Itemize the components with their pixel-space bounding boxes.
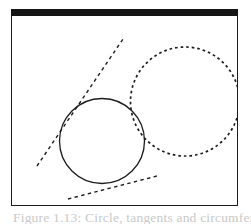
tangent-line-shallow <box>68 176 157 199</box>
geometry-diagram <box>11 9 238 206</box>
caption-strip: Figure 1.13: Circle, tangents and circum… <box>0 213 251 224</box>
dashed-circle <box>131 47 239 156</box>
tangent-line-steep <box>37 39 123 166</box>
figure-page: Figure 1.13: Circle, tangents and circum… <box>0 0 251 224</box>
figure-caption: Figure 1.13: Circle, tangents and circum… <box>13 213 243 224</box>
solid-circle <box>60 99 145 184</box>
top-black-bar <box>11 9 238 16</box>
